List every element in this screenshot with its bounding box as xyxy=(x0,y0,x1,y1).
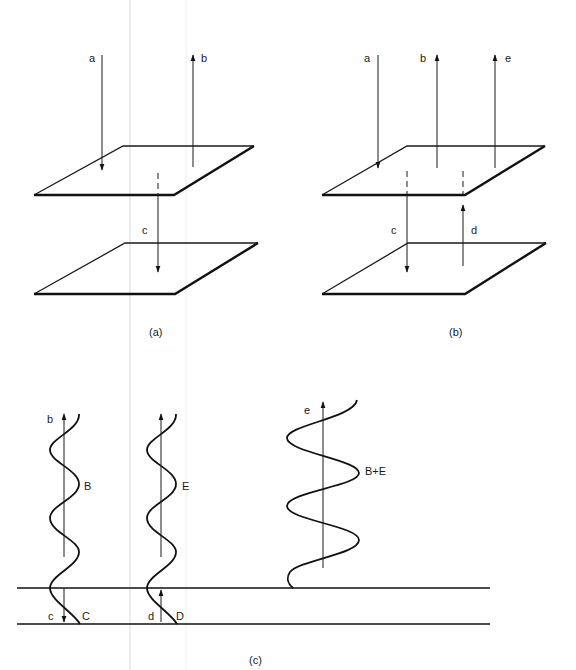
label-a: a xyxy=(89,52,96,64)
label-b: b xyxy=(420,52,426,64)
panel-a: a b c (a) xyxy=(34,52,258,338)
label-a: a xyxy=(364,52,371,64)
lower-plane xyxy=(34,243,258,294)
label-c: c xyxy=(142,224,148,236)
upper-plane xyxy=(34,146,254,195)
label-d: d xyxy=(471,224,477,236)
label-d: d xyxy=(148,610,154,622)
label-E: E xyxy=(182,480,189,492)
wave-b-group: b B c C xyxy=(47,413,91,624)
label-b: b xyxy=(47,413,53,425)
label-c: c xyxy=(48,610,54,622)
caption-c: (c) xyxy=(249,654,262,666)
wave-b xyxy=(50,414,80,624)
label-b: b xyxy=(201,52,207,64)
caption-b: (b) xyxy=(449,326,462,338)
wave-reflection-diagram: a b c (a) a b e c d ( xyxy=(0,0,576,670)
upper-plane xyxy=(322,146,545,195)
label-B: B xyxy=(84,480,91,492)
wave-e xyxy=(147,414,177,624)
panel-c: b B c C E d D e B+E (c) xyxy=(17,400,490,666)
label-c: c xyxy=(391,224,397,236)
caption-a: (a) xyxy=(149,326,162,338)
wave-e-group: E d D xyxy=(147,414,189,624)
label-D: D xyxy=(176,610,184,622)
label-e: e xyxy=(505,52,511,64)
lower-plane xyxy=(322,243,546,294)
wave-sum-group: e B+E xyxy=(287,400,386,588)
label-B-plus-E: B+E xyxy=(365,465,386,477)
panel-b: a b e c d (b) xyxy=(322,52,546,338)
label-C: C xyxy=(82,610,90,622)
label-e: e xyxy=(304,404,310,416)
